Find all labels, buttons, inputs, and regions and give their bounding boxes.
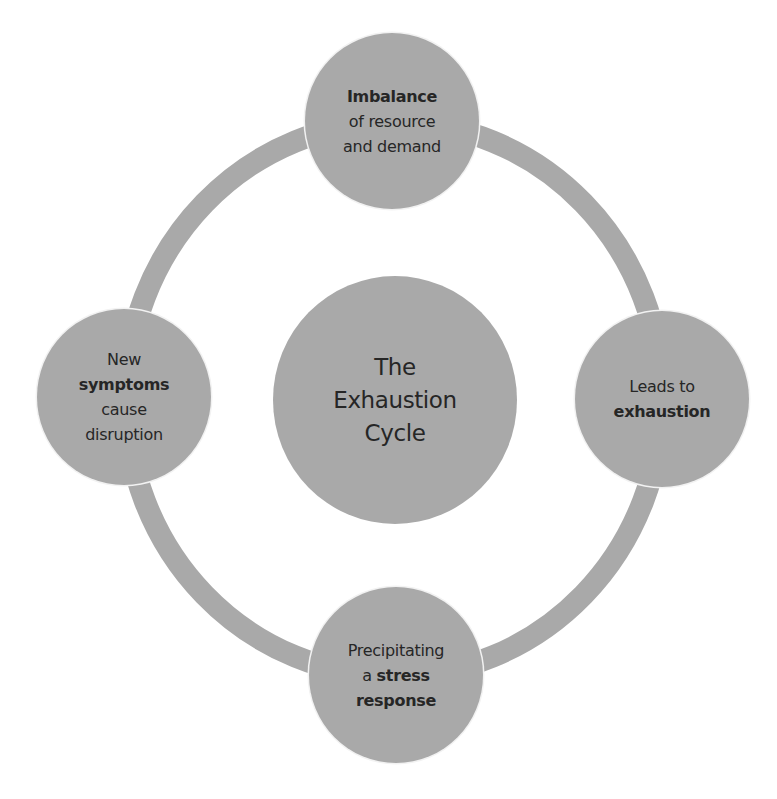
node-text-bold: response [356,691,436,710]
node-text-line: cause [101,397,146,422]
cycle-node-exhaustion: Leads to exhaustion [575,311,749,487]
node-text-line: Precipitating [348,638,444,663]
exhaustion-cycle-diagram: The Exhaustion Cycle Imbalance of resour… [0,0,777,799]
node-text-line: Imbalance [347,84,437,109]
node-text-line: and demand [343,134,441,159]
node-text-bold: exhaustion [614,402,711,421]
cycle-node-new-symptoms: New symptoms cause disruption [37,309,211,485]
center-node-exhaustion-cycle: The Exhaustion Cycle [273,276,517,524]
node-text-line: Leads to [629,374,695,399]
node-text-bold: Imbalance [347,87,437,106]
node-text-bold: symptoms [79,375,170,394]
node-text-line: a stress [362,663,429,688]
node-text-line: New [107,347,141,372]
cycle-node-stress-response: Precipitating a stress response [309,587,483,763]
center-title-line: The [374,351,416,384]
node-text-prefix: a [362,666,376,685]
node-text-line: symptoms [79,372,170,397]
center-title-line: Cycle [365,417,426,450]
cycle-node-imbalance: Imbalance of resource and demand [305,33,479,209]
node-text-line: exhaustion [614,399,711,424]
node-text-line: disruption [85,422,162,447]
node-text-line: response [356,688,436,713]
node-text-bold: stress [377,666,430,685]
node-text-line: of resource [349,109,435,134]
center-title-line: Exhaustion [333,384,456,417]
